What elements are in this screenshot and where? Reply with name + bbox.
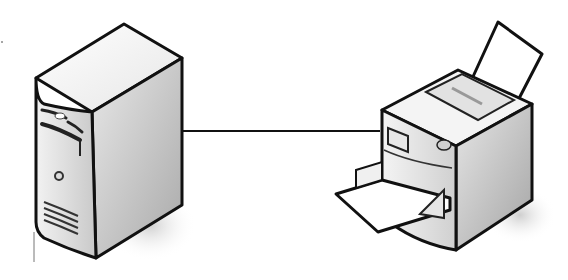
printer-icon	[336, 22, 556, 250]
server-tower-icon	[1, 24, 196, 262]
network-diagram	[0, 0, 568, 280]
